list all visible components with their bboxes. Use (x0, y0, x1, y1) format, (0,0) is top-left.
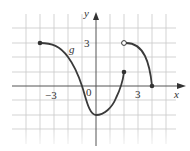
curve-piece-2 (126, 43, 152, 86)
function-graph: y x g −3 0 3 3 (0, 0, 190, 151)
y-axis-arrow-icon (93, 12, 99, 20)
y-axis-label: y (83, 7, 89, 19)
x-tick-label-3: 3 (135, 88, 141, 100)
open-endpoint (122, 41, 127, 46)
closed-endpoint-right (150, 84, 155, 89)
x-axis-label: x (173, 88, 179, 100)
origin-label: 0 (86, 86, 92, 98)
closed-endpoint-mid (122, 70, 127, 75)
closed-endpoint-left (38, 41, 43, 46)
x-tick-label-neg3: −3 (45, 89, 57, 101)
y-tick-label-3: 3 (84, 37, 90, 49)
bottom-fade (0, 128, 190, 151)
function-label: g (69, 43, 75, 55)
